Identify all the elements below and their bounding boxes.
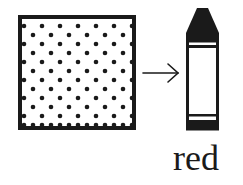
crayon-icon — [186, 8, 219, 130]
color-label: red — [173, 138, 219, 178]
pattern-to-color-key: red — [0, 0, 243, 185]
arrow-right-icon — [143, 64, 178, 82]
dotted-pattern-square — [20, 17, 134, 128]
